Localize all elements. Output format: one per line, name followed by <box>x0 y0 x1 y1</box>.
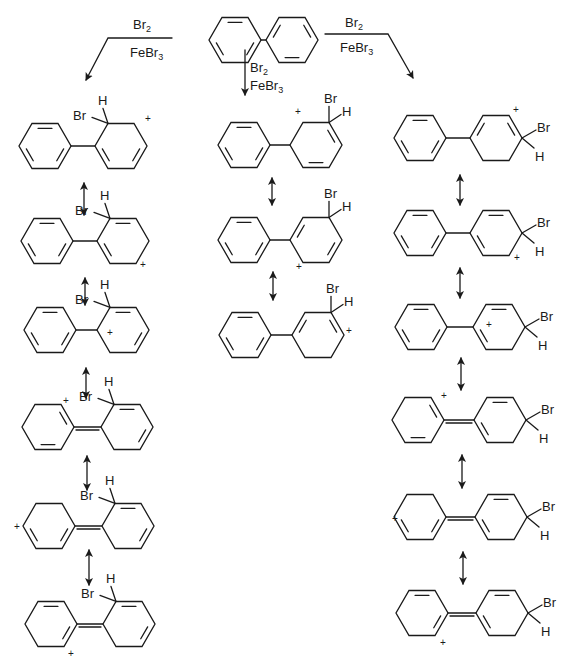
arenium-ring <box>474 397 526 442</box>
positive-charge: + <box>145 113 151 124</box>
phenyl-ring <box>394 115 446 160</box>
ortho-resonance-structure-4: BrH+ <box>22 374 153 449</box>
phenyl-ring <box>25 601 77 646</box>
reagent-br2-middle: Br2 <box>250 60 268 77</box>
ortho-resonance-structure-1: BrH+ <box>19 93 151 168</box>
phenyl-ring <box>19 123 71 168</box>
phenyl-ring <box>219 312 271 357</box>
phenyl-ring <box>23 503 75 548</box>
hydrogen-atom: H <box>541 624 550 639</box>
para-resonance-structure-2: BrH+ <box>394 210 551 263</box>
positive-charge: + <box>392 513 398 524</box>
positive-charge: + <box>140 259 146 270</box>
column-ortho: BrH+BrH+BrH+BrH+BrH+BrH+ <box>14 93 155 659</box>
para-resonance-structure-6: BrH+ <box>396 590 557 648</box>
arenium-ring <box>470 115 522 160</box>
positive-charge: + <box>63 395 69 406</box>
reaction-scheme: Br2 FeBr3 Br2 FeBr3 Br2 FeBr3 BrH+BrH+Br… <box>0 0 566 667</box>
bromine-atom: Br <box>81 586 95 601</box>
positive-charge: + <box>107 327 113 338</box>
positive-charge: + <box>440 637 446 648</box>
bromine-atom: Br <box>537 120 551 135</box>
para-resonance-structure-3: BrH+ <box>395 304 554 353</box>
positive-charge: + <box>486 319 492 330</box>
reagent-br2-left: Br2 <box>133 17 151 34</box>
hydrogen-atom: H <box>540 528 549 543</box>
hydrogen-atom: H <box>535 244 544 259</box>
bromine-atom: Br <box>324 186 338 201</box>
hydrogen-atom: H <box>539 431 548 446</box>
phenyl-ring <box>396 590 448 635</box>
resonance-columns: BrH+BrH+BrH+BrH+BrH+BrH+BrH+BrH+BrH+BrH+… <box>14 91 557 659</box>
ortho-resonance-structure-6: BrH+ <box>25 571 155 659</box>
bromine-atom: Br <box>541 402 555 417</box>
arenium-ring <box>290 217 342 262</box>
benzene-ring-left <box>209 17 261 62</box>
phenyl-ring <box>218 122 270 167</box>
ortho-resonance-structure-5: BrH+ <box>14 473 154 548</box>
hydrogen-atom: H <box>344 294 353 309</box>
phenyl-ring <box>218 217 270 262</box>
arenium-ring <box>290 122 342 167</box>
meta-resonance-structure-2: BrH+ <box>218 186 351 272</box>
arenium-ring <box>97 307 149 352</box>
arenium-ring <box>470 210 522 255</box>
positive-charge: + <box>441 390 447 401</box>
positive-charge: + <box>14 521 20 532</box>
arenium-ring <box>476 590 528 635</box>
phenyl-ring <box>394 494 446 539</box>
column-meta: BrH+BrH+BrH+ <box>218 91 353 357</box>
hydrogen-atom: H <box>105 473 114 488</box>
catalyst-febr3-left: FeBr3 <box>130 45 163 62</box>
hydrogen-atom: H <box>535 149 544 164</box>
hydrogen-atom: H <box>538 338 547 353</box>
arenium-ring <box>292 312 344 357</box>
meta-resonance-structure-1: BrH+ <box>218 91 351 167</box>
para-resonance-structure-1: BrH+ <box>394 104 551 164</box>
hydrogen-atom: H <box>342 199 351 214</box>
positive-charge: + <box>295 106 301 117</box>
phenyl-ring <box>24 307 76 352</box>
resonance-arrows <box>84 175 463 585</box>
bromine-atom: Br <box>537 215 551 230</box>
hydrogen-atom: H <box>100 277 109 292</box>
phenyl-ring <box>395 304 447 349</box>
bromine-atom: Br <box>73 108 87 123</box>
hydrogen-atom: H <box>98 93 107 108</box>
positive-charge: + <box>513 104 519 115</box>
hydrogen-atom: H <box>342 104 351 119</box>
arenium-ring <box>95 123 147 168</box>
phenyl-ring <box>21 218 73 263</box>
para-resonance-structure-4: BrH+ <box>392 390 555 446</box>
bromine-atom: Br <box>540 309 554 324</box>
positive-charge: + <box>296 261 302 272</box>
meta-resonance-structure-3: BrH+ <box>219 281 353 357</box>
phenyl-ring <box>22 404 74 449</box>
hydrogen-atom: H <box>106 571 115 586</box>
bromine-atom: Br <box>542 499 556 514</box>
bromine-atom: Br <box>324 91 338 106</box>
catalyst-febr3-right: FeBr3 <box>340 40 373 57</box>
arenium-ring <box>97 218 149 263</box>
catalyst-febr3-middle: FeBr3 <box>250 78 283 95</box>
arenium-ring <box>103 601 155 646</box>
ortho-resonance-structure-3: BrH+ <box>24 277 149 352</box>
ortho-resonance-structure-2: BrH+ <box>21 188 149 270</box>
biphenyl-starting-material <box>209 17 318 62</box>
positive-charge: + <box>346 325 352 336</box>
para-resonance-structure-5: BrH+ <box>392 494 556 543</box>
bromine-atom: Br <box>75 203 89 218</box>
benzene-ring-right <box>266 17 318 62</box>
bromine-atom: Br <box>326 281 340 296</box>
reagent-br2-right: Br2 <box>345 15 363 32</box>
hydrogen-atom: H <box>104 374 113 389</box>
arenium-ring <box>473 304 525 349</box>
bromine-atom: Br <box>75 292 89 307</box>
phenyl-ring <box>394 210 446 255</box>
arenium-ring <box>102 503 154 548</box>
column-para: BrH+BrH+BrH+BrH+BrH+BrH+ <box>392 104 557 648</box>
positive-charge: + <box>514 252 520 263</box>
hydrogen-atom: H <box>100 188 109 203</box>
bromine-atom: Br <box>543 595 557 610</box>
arenium-ring <box>101 404 153 449</box>
